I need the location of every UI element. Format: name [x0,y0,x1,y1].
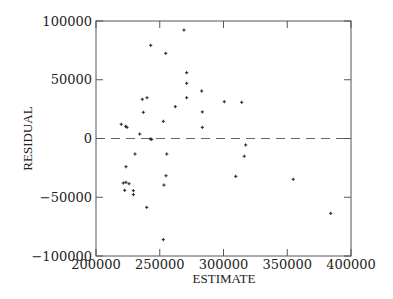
x-axis-title: ESTIMATE [193,271,256,286]
y-axis-tick-labels: 100000500000−50000−100000 [31,14,92,264]
data-point-plus-marker [244,143,247,146]
data-point-plus-marker [145,96,148,99]
data-point-plus-marker [240,101,243,104]
data-point-plus-marker [165,152,168,155]
data-point-plus-marker [162,183,165,186]
data-point-plus-marker [123,189,126,192]
data-point-plus-marker [243,155,246,158]
data-point-plus-marker [292,178,295,181]
data-point-plus-marker [164,52,167,55]
data-point-plus-marker [162,238,165,241]
x-tick-label: 250000 [135,257,185,272]
data-point-plus-marker [185,82,188,85]
y-tick-label: 0 [84,131,92,146]
data-point-plus-marker [141,98,144,101]
data-point-plus-marker [164,174,167,177]
data-point-plus-marker [132,193,135,196]
data-point-plus-marker [162,120,165,123]
x-tick-label: 400000 [326,257,376,272]
data-point-plus-marker [185,71,188,74]
data-point-plus-marker [124,165,127,168]
data-point-plus-marker [145,206,148,209]
plot-area [96,21,351,256]
data-point-plus-marker [223,100,226,103]
data-point-plus-marker [234,175,237,178]
scatter-chart: 200000250000300000350000400000 100000500… [0,0,393,299]
x-tick-label: 350000 [262,257,312,272]
data-point-plus-marker [329,212,332,215]
data-point-plus-marker [133,152,136,155]
x-axis-tick-labels: 200000250000300000350000400000 [71,257,376,272]
data-point-plus-marker [185,96,188,99]
data-point-plus-marker [200,89,203,92]
y-tick-label: −100000 [31,249,92,264]
data-point-plus-marker [127,182,130,185]
data-point-plus-marker [201,110,204,113]
y-axis-title: RESIDUAL [20,106,35,170]
data-point-plus-marker [132,189,135,192]
data-point-plus-marker [120,123,123,126]
data-point-plus-marker [201,126,204,129]
y-tick-label: 100000 [42,14,92,29]
data-points [120,28,333,241]
y-tick-label: −50000 [40,190,92,205]
y-tick-label: 50000 [51,72,92,87]
data-point-plus-marker [142,111,145,114]
data-point-plus-marker [138,132,141,135]
x-tick-label: 300000 [199,257,249,272]
data-point-plus-marker [182,28,185,31]
data-point-plus-marker [174,105,177,108]
data-point-plus-marker [149,44,152,47]
